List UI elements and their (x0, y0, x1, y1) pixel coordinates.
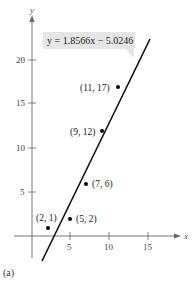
y-ticks: 5 10 15 20 (16, 55, 36, 197)
x-tick-5: 5 (67, 242, 72, 252)
point-11-17 (116, 85, 120, 89)
point-label-9-12: (9, 12) (70, 127, 95, 138)
point-label-7-6: (7, 6) (92, 179, 113, 190)
x-tick-10: 10 (104, 242, 114, 252)
y-tick-15: 15 (16, 98, 26, 108)
scatter-plot: x y 5 10 15 5 10 15 20 y = 1.8566x − 5.0… (0, 0, 195, 281)
x-tick-15: 15 (143, 242, 153, 252)
regression-line (42, 39, 150, 261)
point-7-6 (84, 182, 88, 186)
regression-equation: y = 1.8566x − 5.0246 (47, 35, 133, 46)
point-9-12 (100, 129, 104, 133)
y-axis-arrow-icon (30, 15, 35, 22)
y-axis-label: y (29, 5, 34, 15)
figure-caption: (a) (3, 267, 14, 278)
data-points (46, 85, 120, 230)
y-tick-5: 5 (20, 187, 25, 197)
x-ticks: 5 10 15 (67, 232, 153, 252)
point-5-2 (68, 217, 72, 221)
equation-callout: y = 1.8566x − 5.0246 (43, 32, 135, 58)
y-tick-10: 10 (16, 143, 26, 153)
x-axis-arrow-icon (174, 234, 181, 239)
point-label-5-2: (5, 2) (76, 214, 97, 225)
y-tick-20: 20 (16, 55, 26, 65)
x-axis-label: x (183, 231, 188, 241)
point-label-11-17: (11, 17) (80, 83, 110, 94)
point-label-2-1: (2, 1) (36, 213, 57, 224)
point-2-1 (46, 226, 50, 230)
